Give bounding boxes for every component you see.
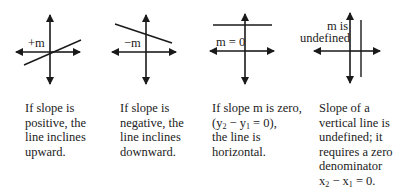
caption-zero: If slope m is zero, (y2 − y1 = 0), the l… <box>212 101 308 159</box>
caption-line: (y2 − y1 = 0), <box>212 116 308 131</box>
caption-line: upward. <box>25 145 121 160</box>
caption-line: the line is <box>212 130 308 145</box>
slope-diagrams: +m −m m = 0 m is undefined <box>0 0 401 100</box>
slope-label: m = 0 <box>216 35 245 49</box>
caption-line: vertical line is <box>319 116 401 131</box>
caption-line: Slope of a <box>319 101 401 116</box>
positive-slope-graph: +m <box>16 15 81 84</box>
undefined-slope-graph: m is undefined <box>300 13 380 83</box>
slope-label-line-2: undefined <box>300 31 351 45</box>
caption-negative: If slope is negative, the line inclines … <box>120 101 216 159</box>
caption-line: negative, the <box>120 116 216 131</box>
caption-line: requires a zero <box>319 145 401 160</box>
slope-label: +m <box>28 36 45 50</box>
negative-slope-graph: −m <box>112 15 176 84</box>
caption-line: downward. <box>120 145 216 160</box>
slope-label: −m <box>124 36 141 50</box>
caption-line: undefined; it <box>319 130 401 145</box>
caption-line: If slope m is zero, <box>212 101 308 116</box>
caption-line: x2 − x1 = 0. <box>319 174 401 189</box>
caption-line: positive, the <box>25 116 121 131</box>
caption-line: If slope is <box>25 101 121 116</box>
caption-line: line inclines <box>25 130 121 145</box>
caption-line: line inclines <box>120 130 216 145</box>
caption-line: horizontal. <box>212 145 308 160</box>
caption-line: If slope is <box>120 101 216 116</box>
caption-positive: If slope is positive, the line inclines … <box>25 101 121 159</box>
zero-slope-graph: m = 0 <box>210 14 274 84</box>
caption-undefined: Slope of a vertical line is undefined; i… <box>319 101 401 188</box>
caption-line: denominator <box>319 159 401 174</box>
